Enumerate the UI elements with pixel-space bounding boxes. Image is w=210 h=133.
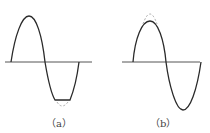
caption-b: （b）: [150, 115, 176, 130]
caption-a: （a）: [46, 115, 72, 130]
waveform-b: [133, 21, 201, 110]
figure-a: [5, 16, 92, 106]
waveform-diagram: [0, 0, 210, 133]
figure-b: [122, 14, 201, 110]
clipped-trough-dashed-a: [57, 102, 68, 106]
waveform-a: [11, 16, 79, 100]
